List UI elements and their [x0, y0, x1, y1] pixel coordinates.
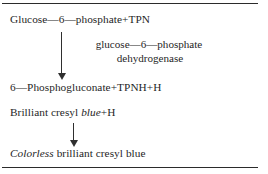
reactant-2-prefix-text: Brilliant cresyl	[10, 106, 81, 118]
reaction-arrow-1	[56, 32, 67, 80]
enzyme-label-line-2: dehydrogenase	[76, 52, 224, 66]
reaction-line-reactant-1: Glucose—6—phosphate+TPN	[10, 13, 150, 26]
enzyme-label-line-1: glucose—6—phosphate	[74, 38, 224, 52]
reaction-line-product-1: 6—Phosphogluconate+TPNH+H	[10, 81, 161, 94]
enzyme-label: glucose—6—phosphate dehydrogenase	[74, 38, 224, 65]
reactant-2-italic-term: blue	[81, 106, 101, 118]
arrow-shaft	[73, 123, 74, 141]
reaction-line-product-2: Colorless brilliant cresyl blue	[10, 147, 146, 160]
top-divider-rule	[2, 3, 258, 4]
arrow-shaft	[61, 32, 62, 74]
reactant-2-suffix-text: +H	[101, 106, 116, 118]
bottom-divider-rule	[2, 167, 258, 168]
arrow-head-icon	[58, 73, 66, 80]
product-2-italic-term: Colorless	[10, 147, 54, 159]
reaction-line-reactant-2: Brilliant cresyl blue+H	[10, 106, 115, 119]
reaction-scheme-figure: Glucose—6—phosphate+TPN glucose—6—phosph…	[0, 0, 268, 174]
arrow-head-icon	[70, 140, 78, 147]
product-2-suffix-text: brilliant cresyl blue	[54, 147, 146, 159]
reaction-arrow-2	[68, 123, 79, 148]
